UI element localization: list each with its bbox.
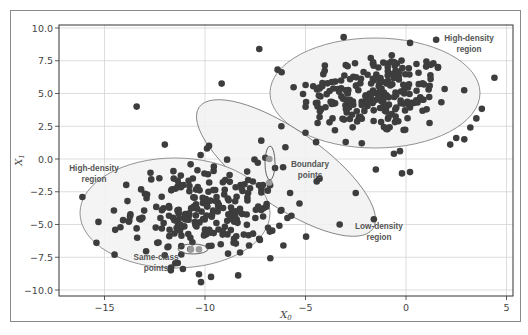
data-point <box>158 193 165 200</box>
data-point <box>227 214 234 221</box>
data-point <box>343 106 350 113</box>
data-point <box>383 108 390 115</box>
data-point <box>120 217 127 224</box>
data-point <box>123 182 130 189</box>
data-point <box>353 83 360 90</box>
data-point <box>302 103 309 110</box>
data-point <box>177 172 184 179</box>
data-point <box>233 240 240 247</box>
data-point <box>220 179 227 186</box>
data-point <box>260 213 267 220</box>
data-point <box>177 182 184 189</box>
data-point <box>340 34 347 41</box>
data-point <box>226 172 233 179</box>
data-point <box>336 88 343 95</box>
data-point <box>425 86 432 93</box>
data-point <box>316 114 323 121</box>
data-point <box>238 185 245 192</box>
data-point <box>210 187 217 194</box>
data-point <box>372 97 379 104</box>
data-point <box>413 61 420 68</box>
data-point <box>160 205 167 212</box>
data-point <box>282 144 289 151</box>
data-point <box>419 96 426 103</box>
data-point <box>117 224 124 231</box>
data-point <box>220 205 227 212</box>
data-point <box>370 60 377 67</box>
data-point <box>352 190 359 197</box>
data-point <box>171 217 178 224</box>
data-point <box>316 92 323 99</box>
data-point <box>413 97 420 104</box>
data-point <box>395 118 402 125</box>
data-point <box>320 71 327 78</box>
data-point <box>347 76 354 83</box>
y-axis-label: X1 <box>13 154 26 167</box>
data-point <box>370 87 377 94</box>
y-tick-label: −7.5 <box>30 252 53 263</box>
data-point <box>269 227 276 234</box>
data-point <box>473 115 480 122</box>
data-point <box>194 184 201 191</box>
data-point <box>415 81 422 88</box>
data-point <box>144 191 151 198</box>
data-point <box>166 226 173 233</box>
data-point <box>133 103 140 110</box>
data-point <box>400 81 407 88</box>
data-point <box>402 107 409 114</box>
data-point <box>194 167 201 174</box>
data-point <box>207 197 214 204</box>
data-point <box>296 200 303 207</box>
data-point <box>310 83 317 90</box>
data-point <box>278 207 285 214</box>
data-point <box>206 179 213 186</box>
data-point <box>399 65 406 72</box>
data-point <box>260 182 267 189</box>
data-point <box>111 207 118 214</box>
data-point <box>385 115 392 122</box>
data-point <box>162 141 169 148</box>
data-point <box>390 70 397 77</box>
data-point <box>226 179 233 186</box>
data-point <box>353 108 360 115</box>
data-point <box>378 85 385 92</box>
data-point <box>388 58 395 65</box>
x-tick-label: −5 <box>298 302 312 313</box>
data-point <box>203 212 210 219</box>
data-point <box>232 184 239 191</box>
data-point <box>244 222 251 229</box>
data-point <box>267 255 274 262</box>
data-point <box>185 231 192 238</box>
data-point <box>428 62 435 69</box>
data-point <box>160 220 167 227</box>
data-point <box>258 189 265 196</box>
data-point <box>319 83 326 90</box>
data-point <box>174 207 181 214</box>
data-point <box>329 115 336 122</box>
data-point <box>134 234 141 241</box>
data-point <box>235 272 242 279</box>
data-point <box>364 71 371 78</box>
data-point <box>133 225 140 232</box>
y-tick-label: 10.0 <box>32 23 53 34</box>
data-point <box>233 233 240 240</box>
data-point <box>139 214 146 221</box>
data-point <box>349 124 356 131</box>
data-point <box>197 152 204 159</box>
data-point <box>276 223 283 230</box>
data-point <box>347 97 354 104</box>
y-tick-label: 0.0 <box>38 154 53 165</box>
highlighted-point <box>196 246 203 253</box>
data-point <box>373 166 380 173</box>
data-point <box>124 198 131 205</box>
x-tick-label: −10 <box>195 302 215 313</box>
data-point <box>342 139 349 146</box>
data-point <box>214 199 221 206</box>
data-point <box>336 221 343 228</box>
y-tick-label: −2.5 <box>30 186 53 197</box>
data-point <box>193 212 200 219</box>
data-point <box>453 135 460 142</box>
annotation-upper-high-density-2: region <box>456 45 481 54</box>
data-point <box>147 170 154 177</box>
data-point <box>224 156 231 163</box>
